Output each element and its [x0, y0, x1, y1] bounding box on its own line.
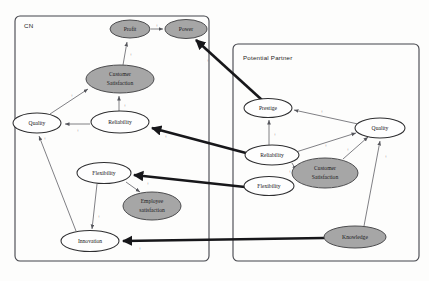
node-cn-employee-satisfaction[interactable]: Employee satisfaction: [123, 192, 181, 220]
edge-pp-knowledge-to-cn-innovation: [123, 238, 324, 241]
node-pp-reliability[interactable]: Reliability: [245, 145, 299, 165]
node-cn-customer-satisfaction-label-line2: Satisfaction: [107, 80, 134, 86]
node-pp-flexibility[interactable]: Flexibility: [244, 177, 294, 196]
node-cn-employee-satisfaction-shape: [123, 192, 181, 220]
node-pp-quality[interactable]: Quality: [355, 118, 405, 138]
node-cn-power-label: Power: [179, 26, 193, 32]
edge-sign-flexibility-innovation: +: [98, 214, 101, 219]
node-cn-innovation[interactable]: Innovation: [61, 231, 119, 252]
node-cn-flexibility[interactable]: Flexibility: [77, 163, 131, 184]
edge-cn-flexibility-to-cn-innovation: [92, 184, 97, 229]
edge-sign-custsat-profit: +: [130, 52, 133, 57]
edge-sign-pp-quality-prestige: +: [321, 109, 324, 114]
edge-sign-pp-reliability-quality: +: [325, 143, 328, 148]
node-cn-customer-satisfaction-shape: [86, 65, 154, 93]
edge-sign-innovation-quality: +: [44, 136, 47, 141]
edge-sign-pp-knowledge-cn-innovation: +: [139, 246, 142, 251]
node-pp-reliability-label: Reliability: [260, 152, 284, 158]
edge-sign-pp-prestige-cn-power: +: [207, 58, 210, 63]
edge-cn-quality-to-cn-custsat: [50, 89, 88, 114]
node-cn-employee-satisfaction-label-line1: Employee: [141, 198, 164, 204]
node-cn-profit[interactable]: Profit: [110, 20, 150, 38]
edge-sign-pp-knowledge-quality: +: [385, 154, 388, 159]
edge-sign-pp-custsat-quality: +: [347, 147, 350, 152]
node-pp-customer-satisfaction-label-line1: Customer: [314, 165, 336, 171]
edge-cn-custsat-to-cn-profit: [123, 42, 127, 65]
node-pp-knowledge[interactable]: Knowledge: [324, 226, 386, 248]
node-cn-quality-label: Quality: [29, 120, 46, 126]
node-cn-reliability-label: Reliability: [108, 119, 132, 125]
node-pp-customer-satisfaction-shape: [292, 158, 358, 188]
edge-sign-quality-custsat: +: [71, 93, 74, 98]
panel-cn-label: CN: [24, 22, 33, 29]
node-pp-customer-satisfaction-label-line2: Satisfaction: [312, 174, 339, 180]
node-cn-customer-satisfaction[interactable]: Customer Satisfaction: [86, 65, 154, 93]
node-cn-customer-satisfaction-label-line1: Customer: [109, 71, 131, 77]
edge-sign-pp-flexibility-cn-flexibility: +: [147, 181, 150, 186]
node-pp-prestige-label: Prestige: [259, 105, 278, 111]
edge-sign-profit-power: +: [156, 23, 159, 28]
node-pp-customer-satisfaction[interactable]: Customer Satisfaction: [292, 158, 358, 188]
edge-sign-reliability-quality: +: [77, 128, 80, 133]
node-pp-knowledge-label: Knowledge: [342, 234, 368, 240]
node-cn-power[interactable]: Power: [165, 20, 207, 39]
node-pp-prestige[interactable]: Prestige: [244, 99, 292, 118]
node-pp-flexibility-label: Flexibility: [257, 183, 281, 189]
node-cn-quality[interactable]: Quality: [13, 113, 61, 133]
edge-cn-innovation-to-cn-quality: [39, 136, 76, 231]
edge-pp-quality-to-pp-prestige: [294, 110, 358, 124]
edge-sign-pp-reliability-cn-reliability: +: [165, 134, 168, 139]
node-cn-profit-label: Profit: [124, 26, 137, 32]
edge-pp-knowledge-to-pp-quality: [364, 141, 380, 226]
edge-pp-flexibility-to-cn-flexibility: [134, 175, 245, 187]
edge-pp-prestige-to-cn-power: [196, 40, 262, 100]
node-cn-employee-satisfaction-label-line2: satisfaction: [139, 207, 165, 213]
edge-cn-flexibility-to-cn-empsat: [126, 182, 140, 192]
edge-sign-pp-reliability-custsat: +: [289, 169, 292, 174]
edge-sign-reliability-custsat: +: [124, 103, 127, 108]
node-cn-flexibility-label: Flexibility: [92, 170, 116, 176]
causal-map-diagram: CN Potential Partner + + + + + +: [0, 0, 429, 281]
panel-potential-partner-label: Potential Partner: [243, 54, 293, 61]
edge-pp-reliability-to-cn-reliability: [152, 128, 246, 153]
edge-sign-pp-reliability-prestige: +: [274, 132, 277, 137]
node-cn-innovation-label: Innovation: [78, 238, 102, 244]
node-cn-reliability[interactable]: Reliability: [91, 111, 149, 133]
node-pp-quality-label: Quality: [372, 125, 389, 131]
diagram-canvas: CN Potential Partner + + + + + +: [0, 0, 429, 281]
